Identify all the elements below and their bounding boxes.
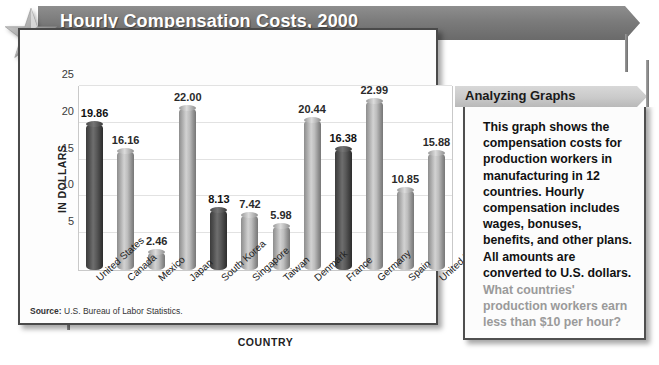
panel-question: What countries' production workers earn … (483, 282, 634, 331)
plot-area: IN DOLLARS 5 10 15 20 25 19.8616.162.462… (78, 86, 453, 271)
bar-value-label: 8.13 (208, 193, 229, 205)
bar-value-label: 7.42 (239, 198, 260, 210)
bar-cap (210, 207, 227, 213)
bar-value-label: 20.44 (298, 103, 326, 115)
x-tick-slot: Mexico (142, 273, 171, 335)
bar-value-label: 16.38 (329, 132, 357, 144)
bar-cap (397, 187, 414, 193)
bar-germany: 22.99 (366, 101, 383, 270)
chart-card: IN DOLLARS 5 10 15 20 25 19.8616.162.462… (18, 28, 438, 325)
x-tick-slot: Germany (361, 273, 390, 335)
bar-cap (366, 98, 383, 104)
y-tick-10: 10 (62, 178, 74, 190)
source-note: Source: U.S. Bureau of Labor Statistics. (30, 306, 183, 316)
x-axis-tick-labels: United StatesCanadaMexicoJapanSouth Kore… (78, 273, 453, 335)
x-tick-slot: Denmark (298, 273, 327, 335)
bar-cap (428, 150, 445, 156)
x-tick-slot: Taiwan (267, 273, 296, 335)
x-tick-slot: Singapore (236, 273, 265, 335)
y-tick-25: 25 (62, 68, 74, 80)
bar-slot: 2.46 (143, 86, 171, 270)
source-text: U.S. Bureau of Labor Statistics. (64, 306, 183, 316)
bar-cap (117, 148, 134, 154)
y-tick-15: 15 (62, 142, 74, 154)
bar-slot: 15.88 (422, 86, 450, 270)
bar-slot: 22.99 (360, 86, 388, 270)
bar-value-label: 5.98 (270, 209, 291, 221)
x-tick-slot: United Kingdom (423, 273, 452, 335)
panel-pole (646, 60, 649, 107)
bar-united-kingdom: 15.88 (428, 153, 445, 270)
bar-japan: 22.00 (179, 108, 196, 270)
bar-slot: 10.85 (391, 86, 419, 270)
bar-cap (273, 223, 290, 229)
x-tick-slot: France (329, 273, 358, 335)
bar-value-label: 2.46 (146, 235, 167, 247)
bar-cap (86, 121, 103, 127)
source-label: Source: (30, 306, 62, 316)
bar-slot: 22.00 (174, 86, 202, 270)
bar-cap (241, 212, 258, 218)
bar-cap (304, 117, 321, 123)
x-tick-slot: Canada (111, 273, 140, 335)
bar-value-label: 19.86 (81, 107, 109, 119)
bar-cap (335, 146, 352, 152)
x-tick-slot: Japan (173, 273, 202, 335)
panel-body-paragraph: This graph shows the compensation costs … (483, 120, 632, 280)
bar-slot: 5.98 (267, 86, 295, 270)
bar-cap (179, 105, 196, 111)
bar-value-label: 10.85 (392, 173, 420, 185)
y-tick-5: 5 (68, 215, 74, 227)
x-axis-label: COUNTRY (78, 336, 453, 348)
bar-value-label: 16.16 (112, 134, 140, 146)
x-tick-slot: United States (79, 273, 108, 335)
page-root: Hourly Compensation Costs, 2000 IN DOLLA… (0, 0, 659, 365)
bar-slot: 19.86 (80, 86, 108, 270)
bar-slot: 20.44 (298, 86, 326, 270)
x-tick-slot: Spain (392, 273, 421, 335)
bar-south-korea: 8.13 (210, 210, 227, 270)
bar-value-label: 22.00 (174, 91, 202, 103)
x-tick-slot: South Korea (204, 273, 233, 335)
analyzing-graphs-panel: This graph shows the compensation costs … (463, 103, 646, 340)
bar-denmark: 20.44 (304, 120, 321, 270)
bar-value-label: 15.88 (423, 136, 451, 148)
panel-header-ribbon: Analyzing Graphs (455, 86, 654, 107)
bar-slot: 16.38 (329, 86, 357, 270)
panel-header-title: Analyzing Graphs (465, 88, 576, 103)
banner-pole-right (625, 34, 628, 72)
panel-body-text: This graph shows the compensation costs … (483, 119, 634, 331)
bar-value-label: 22.99 (360, 84, 388, 96)
bar-slot: 8.13 (205, 86, 233, 270)
y-tick-20: 20 (62, 105, 74, 117)
bar-united-states: 19.86 (86, 124, 103, 270)
